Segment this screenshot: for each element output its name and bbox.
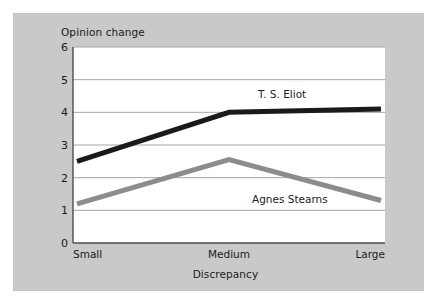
- series-label-agnes-stearns: Agnes Stearns: [252, 193, 328, 205]
- y-tick-label-5: 5: [61, 74, 68, 87]
- series-label-ts-eliot: T. S. Eliot: [257, 88, 306, 100]
- y-tick-label-3: 3: [61, 139, 68, 152]
- x-tick-label-medium: Medium: [208, 248, 250, 260]
- x-axis-title: Discrepancy: [0, 268, 447, 280]
- chart-figure: Opinion change 6 5 4 3 2 1 0 Small Mediu…: [0, 0, 447, 305]
- y-tick-label-2: 2: [61, 172, 68, 185]
- plot-area: 6 5 4 3 2 1 0 Small Medium Large T. S. E…: [0, 0, 447, 305]
- x-tick-label-small: Small: [73, 248, 102, 260]
- y-tick-label-1: 1: [61, 204, 68, 217]
- y-tick-label-4: 4: [61, 106, 68, 119]
- x-tick-label-large: Large: [355, 248, 385, 260]
- y-tick-label-0: 0: [61, 237, 68, 250]
- y-tick-label-6: 6: [61, 41, 68, 54]
- x-axis-title-text: Discrepancy: [193, 268, 259, 280]
